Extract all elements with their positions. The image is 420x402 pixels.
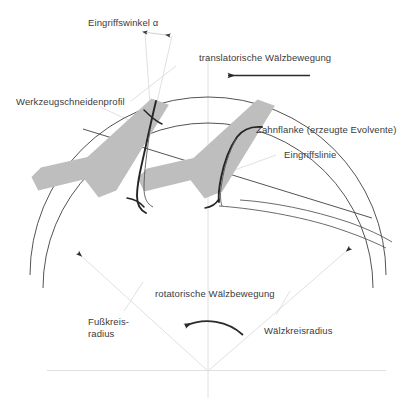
label-line-of-action: Eingriffslinie [284, 149, 336, 161]
leader-tool-profile-upper [131, 66, 176, 101]
rotational-motion-arrow [185, 321, 243, 335]
leader-root-radius [124, 282, 143, 311]
construction-lines [47, 33, 386, 398]
label-pitch-circle-radius: Wälzkreisradius [264, 325, 333, 337]
label-rotational-motion: rotatorische Wälzbewegung [155, 288, 275, 300]
trace-lower-right-2 [240, 200, 392, 242]
label-translational-motion: translatorische Wälzbewegung [199, 52, 331, 64]
label-tool-cutting-profile: Werkzeugschneidenprofil [16, 96, 125, 108]
label-tooth-flank: Zahnflanke (erzeugte Evolvente) [256, 124, 396, 136]
generating-trace-curves [144, 130, 392, 248]
pressure-angle-marker [147, 33, 170, 36]
leader-pitch-radius [276, 291, 290, 315]
label-pressure-angle: Eingriffswinkel α [88, 17, 158, 29]
root-radius-line [78, 253, 208, 371]
label-root-circle-radius: Fußkreis- radius [88, 316, 148, 339]
gear-generation-diagram: Eingriffswinkel α translatorische Wälzbe… [0, 0, 420, 402]
label-root-circle-radius-line1: Fußkreis- [88, 316, 129, 327]
root-fillet-right [205, 199, 219, 208]
label-root-circle-radius-line2: radius [88, 328, 114, 339]
root-fillet-left [127, 198, 144, 207]
